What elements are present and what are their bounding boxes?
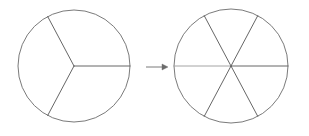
transformation-arrow (146, 64, 168, 70)
circle-partition-figure (0, 0, 309, 136)
right-circle-group (174, 9, 288, 123)
figure-container (0, 0, 309, 136)
left-circle-group (18, 10, 130, 122)
arrow-head-icon (162, 64, 168, 70)
